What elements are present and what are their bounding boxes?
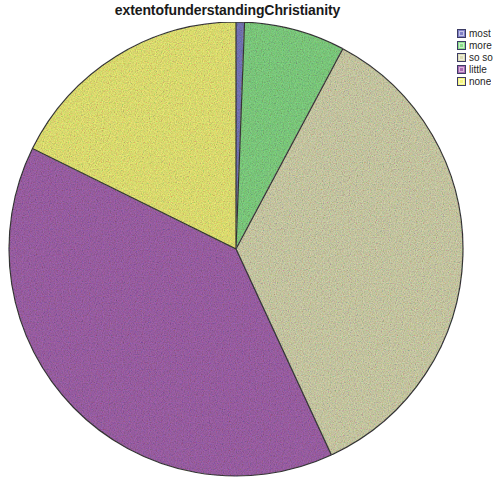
legend-item-most[interactable]: most [457, 27, 499, 39]
legend-swatch-icon [457, 77, 466, 86]
legend-swatch-icon [457, 65, 466, 74]
legend-swatch-icon [457, 29, 466, 38]
pie-slice-group: mostmoreso solittlenone [9, 22, 463, 476]
legend-item-label: little [469, 64, 487, 75]
legend-item-little[interactable]: little [457, 63, 499, 75]
legend-item-none[interactable]: none [457, 75, 499, 87]
pie-chart-area: mostmoreso solittlenone [0, 0, 470, 486]
legend-item-label: so so [469, 52, 493, 63]
pie-chart-svg: mostmoreso solittlenone [0, 0, 470, 486]
chart-window: extentofunderstandingChristianity mostmo… [0, 0, 499, 486]
legend-item-label: most [469, 28, 491, 39]
legend-item-label: more [469, 40, 492, 51]
legend-swatch-icon [457, 53, 466, 62]
chart-legend: mostmoreso solittlenone [457, 27, 499, 87]
legend-item-label: none [469, 76, 491, 87]
legend-swatch-icon [457, 41, 466, 50]
legend-item-so-so[interactable]: so so [457, 51, 499, 63]
legend-item-more[interactable]: more [457, 39, 499, 51]
